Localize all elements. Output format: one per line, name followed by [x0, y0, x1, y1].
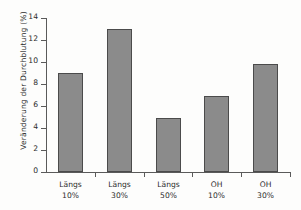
y-tick-label: 2	[16, 145, 38, 153]
bar-chart: Veränderung der Durchblutung (%) 0246810…	[0, 0, 301, 210]
x-axis-label: OH10%	[192, 180, 241, 201]
x-axis-label-line1: OH	[241, 180, 290, 191]
bar	[253, 64, 278, 172]
x-axis-label-line2: 10%	[192, 191, 241, 202]
y-tick-label-wrap: 10	[12, 57, 38, 67]
x-axis-label: OH30%	[241, 180, 290, 201]
y-tick-label: 6	[16, 101, 38, 109]
y-tick-label-wrap: 8	[12, 79, 38, 89]
y-tick-label: 12	[16, 35, 38, 43]
y-tick-mark	[41, 172, 46, 173]
x-axis-label: Längs10%	[46, 180, 95, 201]
x-axis-label-line2: 30%	[95, 191, 144, 202]
x-axis-label-line2: 10%	[46, 191, 95, 202]
x-axis-label-line2: 30%	[241, 191, 290, 202]
y-axis-line	[46, 18, 47, 173]
y-tick-label: 8	[16, 79, 38, 87]
y-tick-mark	[41, 106, 46, 107]
y-tick-label-wrap: 14	[12, 13, 38, 23]
bar	[204, 96, 229, 172]
y-tick-mark	[41, 62, 46, 63]
x-axis-label-line1: Längs	[144, 180, 193, 191]
bar	[58, 73, 83, 172]
y-tick-label: 4	[16, 123, 38, 131]
x-axis-label-line1: OH	[192, 180, 241, 191]
x-axis-label: Längs50%	[144, 180, 193, 201]
y-tick-label-wrap: 6	[12, 101, 38, 111]
x-axis-label: Längs30%	[95, 180, 144, 201]
x-axis-label-line1: Längs	[46, 180, 95, 191]
y-tick-mark	[41, 84, 46, 85]
y-tick-label-wrap: 12	[12, 35, 38, 45]
x-axis-label-line1: Längs	[95, 180, 144, 191]
x-tick-mark	[144, 172, 145, 177]
x-tick-mark	[95, 172, 96, 177]
y-tick-mark	[41, 40, 46, 41]
x-axis-label-line2: 50%	[144, 191, 193, 202]
y-tick-label-wrap: 0	[12, 167, 38, 177]
y-tick-label-wrap: 4	[12, 123, 38, 133]
x-tick-mark	[241, 172, 242, 177]
x-tick-mark	[192, 172, 193, 177]
y-tick-label: 0	[16, 167, 38, 175]
y-tick-mark	[41, 18, 46, 19]
x-axis-line	[41, 172, 290, 173]
y-tick-mark	[41, 150, 46, 151]
x-tick-mark	[290, 172, 291, 177]
y-tick-label-wrap: 2	[12, 145, 38, 155]
bar	[107, 29, 132, 172]
y-tick-label: 14	[16, 13, 38, 21]
y-tick-label: 10	[16, 57, 38, 65]
y-tick-mark	[41, 128, 46, 129]
bar	[156, 118, 181, 172]
